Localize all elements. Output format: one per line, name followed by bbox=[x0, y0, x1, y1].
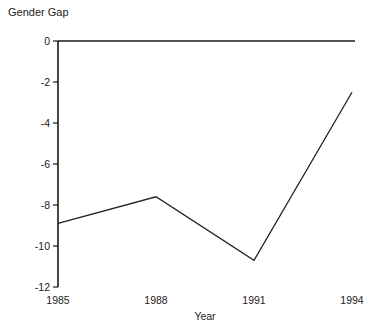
x-tick-label: 1994 bbox=[340, 295, 363, 306]
x-tick-label: 1988 bbox=[144, 295, 167, 306]
y-tick-label: -4 bbox=[41, 118, 50, 129]
x-tick-label: 1991 bbox=[242, 295, 265, 306]
y-tick-label: 0 bbox=[44, 36, 50, 47]
gender-gap-line-chart: Gender Gap 0-2-4-6-8-10-12 1985198819911… bbox=[0, 0, 379, 325]
y-tick-label: -10 bbox=[35, 241, 50, 252]
y-tick-label: -8 bbox=[41, 200, 50, 211]
data-series-line bbox=[58, 92, 352, 260]
y-tick-label: -12 bbox=[35, 282, 50, 293]
x-axis-title: Year bbox=[194, 310, 215, 322]
x-tick-label: 1985 bbox=[46, 295, 69, 306]
y-tick-label: -2 bbox=[41, 77, 50, 88]
plot-area bbox=[0, 0, 379, 325]
y-tick-label: -6 bbox=[41, 159, 50, 170]
